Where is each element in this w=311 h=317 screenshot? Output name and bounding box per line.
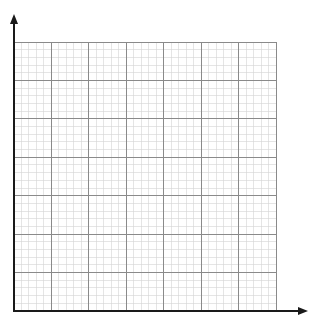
axes bbox=[10, 14, 308, 315]
y-axis-arrow-icon bbox=[10, 14, 18, 24]
x-axis-arrow-icon bbox=[298, 307, 308, 315]
major-grid-lines bbox=[14, 42, 276, 311]
graph-paper bbox=[0, 0, 311, 317]
minor-grid-lines bbox=[14, 42, 276, 311]
